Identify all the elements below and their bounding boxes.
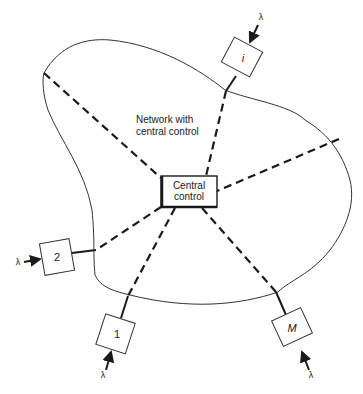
central-control-node: Central control [161,176,217,207]
lambda-1: λ [101,370,106,380]
lambda-M: λ [309,370,314,380]
node-M-label: M [287,322,297,334]
central-control-label-1: Central [173,180,205,191]
lambda-2: λ [16,257,21,267]
network-label-2: central control [136,126,199,137]
node-2: 2 λ [16,239,75,276]
network-boundary [43,40,352,305]
arrow-icon [302,352,309,370]
node-M: M λ [272,308,314,380]
arrow-icon [106,352,111,370]
network-label-1: Network with [136,114,193,125]
central-control-label-2: control [174,191,204,202]
arrow-icon [250,25,258,42]
node-2-label: 2 [54,251,60,263]
node-1: 1 λ [96,314,135,380]
arrow-icon [24,259,40,262]
network-diagram: Central control Network with central con… [0,0,363,394]
node-i: i λ [221,12,263,77]
lambda-i: λ [259,12,264,22]
node-1-label: 1 [114,328,120,340]
